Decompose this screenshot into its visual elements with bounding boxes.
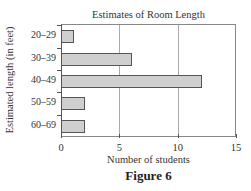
x-tick bbox=[119, 134, 120, 138]
y-category-label: 30–39 bbox=[31, 52, 56, 63]
y-axis-label: Estimated length (in feet) bbox=[4, 26, 15, 133]
bar-4 bbox=[62, 120, 85, 133]
x-tick-label: 15 bbox=[231, 142, 242, 153]
chart-title: Estimates of Room Length bbox=[61, 9, 236, 20]
bar-3 bbox=[62, 97, 85, 110]
bar-2 bbox=[62, 75, 202, 88]
y-category-label: 40–49 bbox=[31, 74, 56, 85]
plot-area bbox=[61, 24, 236, 137]
x-axis-label: Number of students bbox=[61, 154, 236, 165]
bar-1 bbox=[62, 53, 132, 66]
figure-caption: Figure 6 bbox=[61, 168, 236, 184]
y-tick bbox=[57, 115, 62, 116]
x-tick bbox=[236, 134, 237, 138]
y-tick bbox=[57, 70, 62, 71]
bar-0 bbox=[62, 30, 74, 43]
x-tick bbox=[61, 134, 62, 138]
x-tick-label: 5 bbox=[117, 142, 122, 153]
x-tick-label: 10 bbox=[172, 142, 183, 153]
x-tick bbox=[178, 134, 179, 138]
y-tick bbox=[57, 48, 62, 49]
x-tick-label: 0 bbox=[58, 142, 63, 153]
y-tick bbox=[57, 92, 62, 93]
y-category-label: 50–59 bbox=[31, 96, 56, 107]
y-category-label: 20–29 bbox=[31, 29, 56, 40]
y-tick bbox=[57, 25, 62, 26]
y-category-label: 60–69 bbox=[31, 119, 56, 130]
